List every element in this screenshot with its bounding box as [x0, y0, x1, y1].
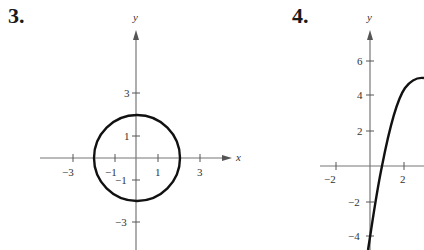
y-axis-label: y [132, 11, 138, 23]
figure-number: 4. [292, 3, 309, 28]
y-axis-label: y [366, 11, 372, 23]
y-tick-label: 2 [357, 125, 363, 137]
y-tick-label: 1 [124, 130, 130, 142]
y-axis-arrow-icon [133, 30, 139, 40]
figure-canvas: 3. y x −3 −1 1 3 3 1 −1 −3 4. y [0, 0, 424, 250]
x-axis-arrow-icon [222, 155, 232, 161]
y-axis-arrow-icon [367, 30, 373, 40]
function-curve [368, 78, 424, 250]
y-tick-label: −3 [115, 216, 127, 228]
y-tick-label: 4 [357, 89, 363, 101]
figure-4: 4. y −2 2 6 4 2 −2 −4 [292, 3, 424, 250]
x-tick-label: 3 [197, 166, 203, 178]
x-tick-label: −2 [324, 173, 336, 185]
x-tick-label: −3 [62, 166, 74, 178]
x-tick-label: 1 [155, 166, 161, 178]
y-tick-label: 6 [357, 55, 363, 67]
figure-3: 3. y x −3 −1 1 3 3 1 −1 −3 [8, 3, 241, 250]
figure-number: 3. [8, 3, 25, 28]
x-tick-label: 2 [400, 173, 406, 185]
y-tick-label: −2 [348, 196, 360, 208]
x-axis-label: x [235, 151, 241, 163]
y-tick-label: −4 [348, 230, 360, 242]
y-tick-label: 3 [124, 87, 130, 99]
y-tick-label: −1 [115, 174, 127, 186]
